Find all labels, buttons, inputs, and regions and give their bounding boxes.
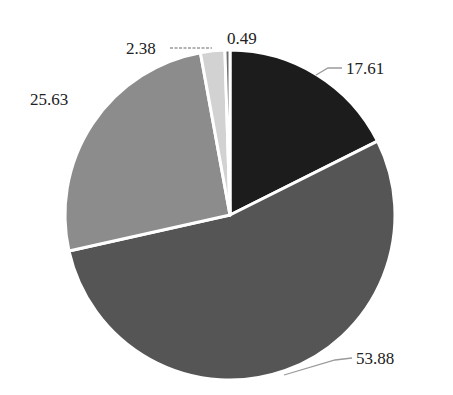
slice-label-2-38: 2.38 [126,39,156,58]
slice-label-53-88: 53.88 [356,349,394,368]
pie-slices [65,50,395,380]
slice-label-25-63: 25.63 [30,90,68,109]
pie-chart: 17.61 53.88 25.63 2.38 0.49 [0,0,453,395]
slice-label-17-61: 17.61 [346,59,384,78]
leader-line-17-61 [316,68,342,75]
slice-label-0-49: 0.49 [227,29,257,48]
